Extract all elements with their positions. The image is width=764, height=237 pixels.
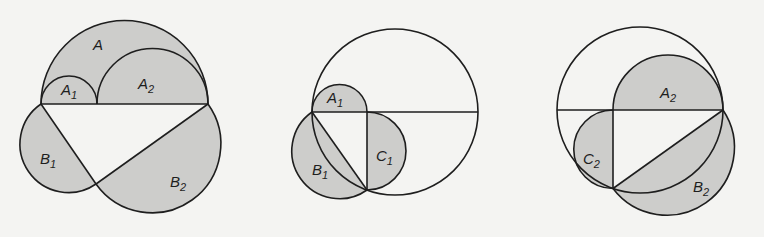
lune-diagram: A A1 A2 B1 B2 A1 B1 C1 A	[0, 0, 764, 237]
figure-1: A A1 A2 B1 B2	[20, 21, 221, 213]
label-a: A	[92, 36, 103, 53]
region-b1	[20, 104, 96, 193]
region-a2	[613, 55, 723, 110]
region-b2	[96, 104, 221, 213]
figure-2: A1 B1 C1	[292, 29, 478, 199]
region-b2	[613, 110, 734, 215]
figure-3: A2 C2 B2	[557, 27, 734, 215]
